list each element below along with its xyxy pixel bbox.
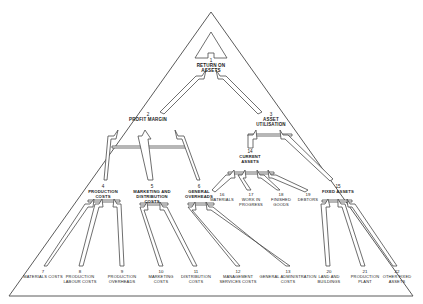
- node-label: WORK IN PROGRESS: [235, 198, 267, 207]
- node-other-fixed-assets[interactable]: 22 OTHER FIXED ASSETS: [378, 270, 416, 284]
- arrow-production-overheads-to-production-costs: [113, 199, 124, 266]
- node-label: PRODUCTION OVERHEADS: [100, 275, 144, 284]
- node-distribution-costs[interactable]: 11 DISTRIBUTION COSTS: [175, 270, 217, 284]
- arrow-production-costs-to-profit-margin: [104, 130, 118, 180]
- node-label: PRODUCTION COSTS: [82, 190, 124, 199]
- node-work-in-progress[interactable]: 17 WORK IN PROGRESS: [235, 193, 267, 207]
- node-label: MANAGEMENT SERVICES COSTS: [213, 275, 263, 284]
- arrow-marketing-distribution-to-profit-margin: [138, 130, 153, 180]
- arrow-current-assets-to-asset-utilisation: [248, 130, 257, 148]
- node-finished-goods[interactable]: 18 FINISHED GOODS: [266, 193, 296, 207]
- node-production-costs[interactable]: 4 PRODUCTION COSTS: [82, 185, 124, 200]
- arrow-marketing-costs-to-marketing-distribution: [140, 202, 163, 266]
- node-label: DISTRIBUTION COSTS: [175, 275, 217, 284]
- node-label: DEBTORS: [294, 198, 322, 202]
- pyramid-diagram: 1 RETURN ON ASSETS 2 PROFIT MARGIN 3 ASS…: [0, 0, 423, 304]
- node-label: FIXED ASSETS: [322, 190, 354, 195]
- node-debtors[interactable]: 19 DEBTORS: [294, 193, 322, 203]
- node-production-labour-costs[interactable]: 8 PRODUCTION LABOUR COSTS: [58, 270, 102, 284]
- fan-bar-general-overheads: [188, 203, 214, 205]
- node-label: MATERIALS: [205, 198, 239, 202]
- node-label: LAND AND BUILDINGS: [310, 275, 348, 284]
- node-label: CURRENT ASSETS: [231, 155, 269, 164]
- node-label: PROFIT MARGIN: [128, 118, 168, 123]
- node-current-assets[interactable]: 14 CURRENT ASSETS: [231, 150, 269, 165]
- node-production-overheads[interactable]: 9 PRODUCTION OVERHEADS: [100, 270, 144, 284]
- node-label: MARKETING AND DISTRIBUTION COSTS: [129, 190, 175, 204]
- node-land-and-buildings[interactable]: 20 LAND AND BUILDINGS: [310, 270, 348, 284]
- node-asset-utilisation[interactable]: 3 ASSET UTILISATION: [249, 113, 293, 128]
- fan-bar-current-assets: [228, 172, 274, 174]
- node-label: FINISHED GOODS: [266, 198, 296, 207]
- arrow-fixed-assets-to-asset-utilisation: [280, 130, 333, 181]
- node-marketing-and-distribution-costs[interactable]: 5 MARKETING AND DISTRIBUTION COSTS: [129, 185, 175, 204]
- node-label: PRODUCTION LABOUR COSTS: [58, 275, 102, 284]
- outer-triangle-frame: [9, 12, 413, 296]
- node-label: RETURN ON ASSETS: [189, 64, 233, 74]
- arrow-profit-margin-to-roa: [160, 70, 206, 114]
- arrow-asset-utilisation-to-roa: [216, 70, 262, 114]
- diagram-canvas: [0, 0, 423, 304]
- node-label: OTHER FIXED ASSETS: [378, 275, 416, 284]
- node-materials[interactable]: 16 MATERIALS: [205, 193, 239, 203]
- arrow-general-overheads-to-profit-margin: [175, 130, 200, 180]
- node-label: MATERIALS COSTS: [23, 275, 63, 279]
- node-fixed-assets[interactable]: 15 FIXED ASSETS: [322, 185, 354, 195]
- arrow-materials-costs-to-production-costs: [44, 199, 94, 266]
- arrow-to-return-on-assets: [195, 32, 227, 58]
- arrow-land-and-buildings-to-fixed-assets: [321, 199, 330, 266]
- node-label: ASSET UTILISATION: [249, 118, 293, 128]
- node-profit-margin[interactable]: 2 PROFIT MARGIN: [128, 113, 168, 123]
- node-return-on-assets[interactable]: 1 RETURN ON ASSETS: [189, 59, 233, 74]
- arrow-general-administration-to-general-overheads: [206, 202, 290, 266]
- node-management-services-costs[interactable]: 12 MANAGEMENT SERVICES COSTS: [213, 270, 263, 284]
- node-materials-costs[interactable]: 7 MATERIALS COSTS: [23, 270, 63, 280]
